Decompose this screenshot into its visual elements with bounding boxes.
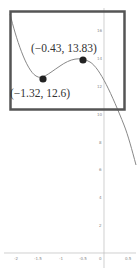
local-max-label: (−0.43, 13.83): [31, 42, 97, 55]
y-tick-labels: 16 14 12 10 8 6 4 2: [97, 28, 103, 228]
x-tick: -2: [14, 256, 18, 261]
y-tick: 8: [99, 140, 102, 145]
x-tick: -1.5: [34, 256, 42, 261]
x-tick: -1: [59, 256, 63, 261]
y-tick: 14: [97, 56, 103, 61]
y-tick: 10: [97, 112, 103, 117]
local-max-point[interactable]: [79, 56, 86, 63]
local-min-point[interactable]: [39, 75, 46, 82]
function-plot: -2 -1.5 -1 -0.5 0 0.5 16 14 12 10 8 6 4 …: [0, 0, 138, 278]
y-tick: 12: [97, 84, 103, 89]
x-tick: 0.5: [125, 256, 132, 261]
y-tick: 6: [99, 167, 102, 172]
x-tick-labels: -2 -1.5 -1 -0.5 0 0.5: [14, 256, 132, 261]
y-tick: 4: [99, 195, 102, 200]
local-min-label: (−1.32, 12.6): [10, 87, 70, 100]
y-tick: 2: [99, 223, 102, 228]
y-tick: 16: [97, 28, 103, 33]
x-tick: -0.5: [79, 256, 87, 261]
x-tick: 0: [99, 256, 102, 261]
